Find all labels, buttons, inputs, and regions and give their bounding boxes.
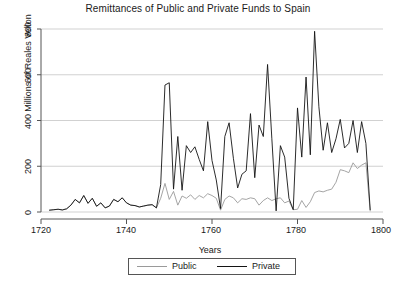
x-tick-label-1800: 1800 <box>361 226 396 235</box>
plot-area <box>0 0 396 281</box>
data-series <box>50 31 371 211</box>
y-tick-label-400: 400 <box>24 110 33 134</box>
y-tick-label-200: 200 <box>24 155 33 179</box>
legend-label-public: Public <box>172 262 197 271</box>
y-tick-label-800: 800 <box>24 18 33 42</box>
legend-swatch-private-icon <box>217 266 247 268</box>
axis-lines <box>41 29 383 219</box>
legend-swatch-public-icon <box>137 266 167 267</box>
y-tick-label-600: 600 <box>24 64 33 88</box>
x-tick-label-1780: 1780 <box>276 226 316 235</box>
chart-legend: Public Private <box>128 258 296 275</box>
x-tick-label-1740: 1740 <box>106 226 146 235</box>
x-tick-label-1720: 1720 <box>21 226 61 235</box>
legend-entry-private[interactable]: Private <box>217 259 280 274</box>
legend-entry-public[interactable]: Public <box>137 259 197 274</box>
y-tick-label-0: 0 <box>24 201 33 225</box>
gridlines <box>41 29 383 212</box>
series-line-private <box>50 31 371 211</box>
x-tick-label-1760: 1760 <box>191 226 231 235</box>
legend-label-private: Private <box>252 262 280 271</box>
chart-figure: Remittances of Public and Private Funds … <box>0 0 396 281</box>
series-line-public <box>50 163 371 211</box>
